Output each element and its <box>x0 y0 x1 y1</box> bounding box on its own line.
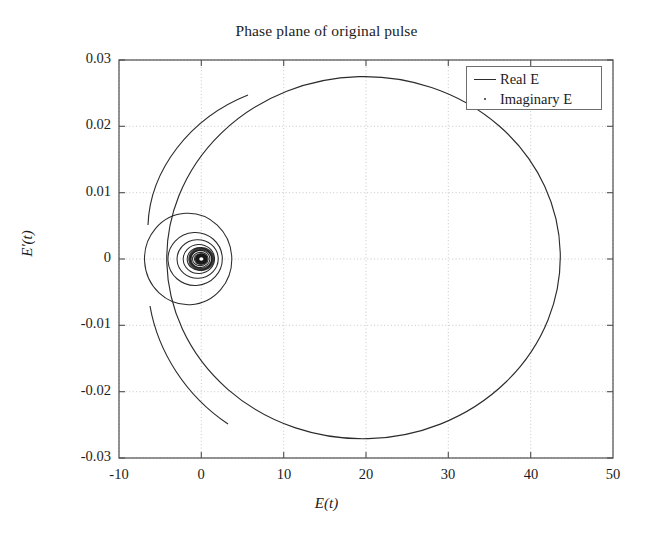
plot-background <box>119 60 613 458</box>
legend-label-imaginary-e: Imaginary E <box>498 91 572 108</box>
legend-line-marker-icon <box>472 69 498 89</box>
y-axis-label: E'(t) <box>19 199 36 289</box>
xtick-label-5: 40 <box>501 466 561 483</box>
xtick-label-0: -10 <box>89 466 149 483</box>
ytick-label-0: 0.03 <box>45 50 111 67</box>
legend-dot-marker-icon <box>472 89 498 109</box>
ytick-label-4: -0.01 <box>41 315 111 332</box>
legend-item-imaginary-e: Imaginary E <box>472 89 597 109</box>
x-axis-label: E(t) <box>0 495 653 512</box>
ytick-label-2: 0.01 <box>45 183 111 200</box>
legend-label-real-e: Real E <box>498 71 539 88</box>
legend-item-real-e: Real E <box>472 69 597 89</box>
chart-figure: Phase plane of original pulse <box>0 0 653 536</box>
xtick-label-4: 30 <box>418 466 478 483</box>
xtick-label-6: 50 <box>583 466 643 483</box>
xtick-label-1: 0 <box>171 466 231 483</box>
xtick-label-3: 20 <box>336 466 396 483</box>
legend: Real E Imaginary E <box>466 66 602 110</box>
xtick-label-2: 10 <box>254 466 314 483</box>
ytick-label-1: 0.02 <box>45 116 111 133</box>
ytick-label-6: -0.03 <box>41 448 111 465</box>
ytick-label-5: -0.02 <box>41 382 111 399</box>
ytick-label-3: 0 <box>45 249 111 266</box>
